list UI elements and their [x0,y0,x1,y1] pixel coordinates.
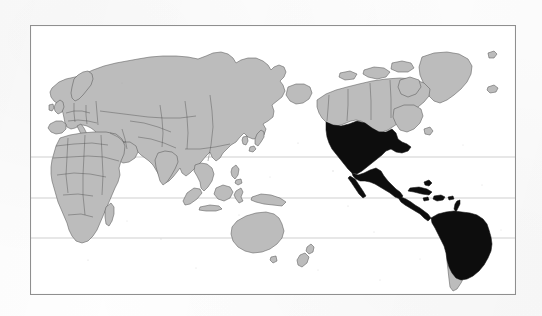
land-canadian-arctic-2 [391,61,414,72]
land-puerto-rico [448,196,454,200]
world-map-figure [30,25,516,295]
land-jamaica [423,197,429,201]
world-map-svg [30,25,516,295]
land-hispaniola [433,195,445,201]
screenshot-canvas [0,0,542,316]
